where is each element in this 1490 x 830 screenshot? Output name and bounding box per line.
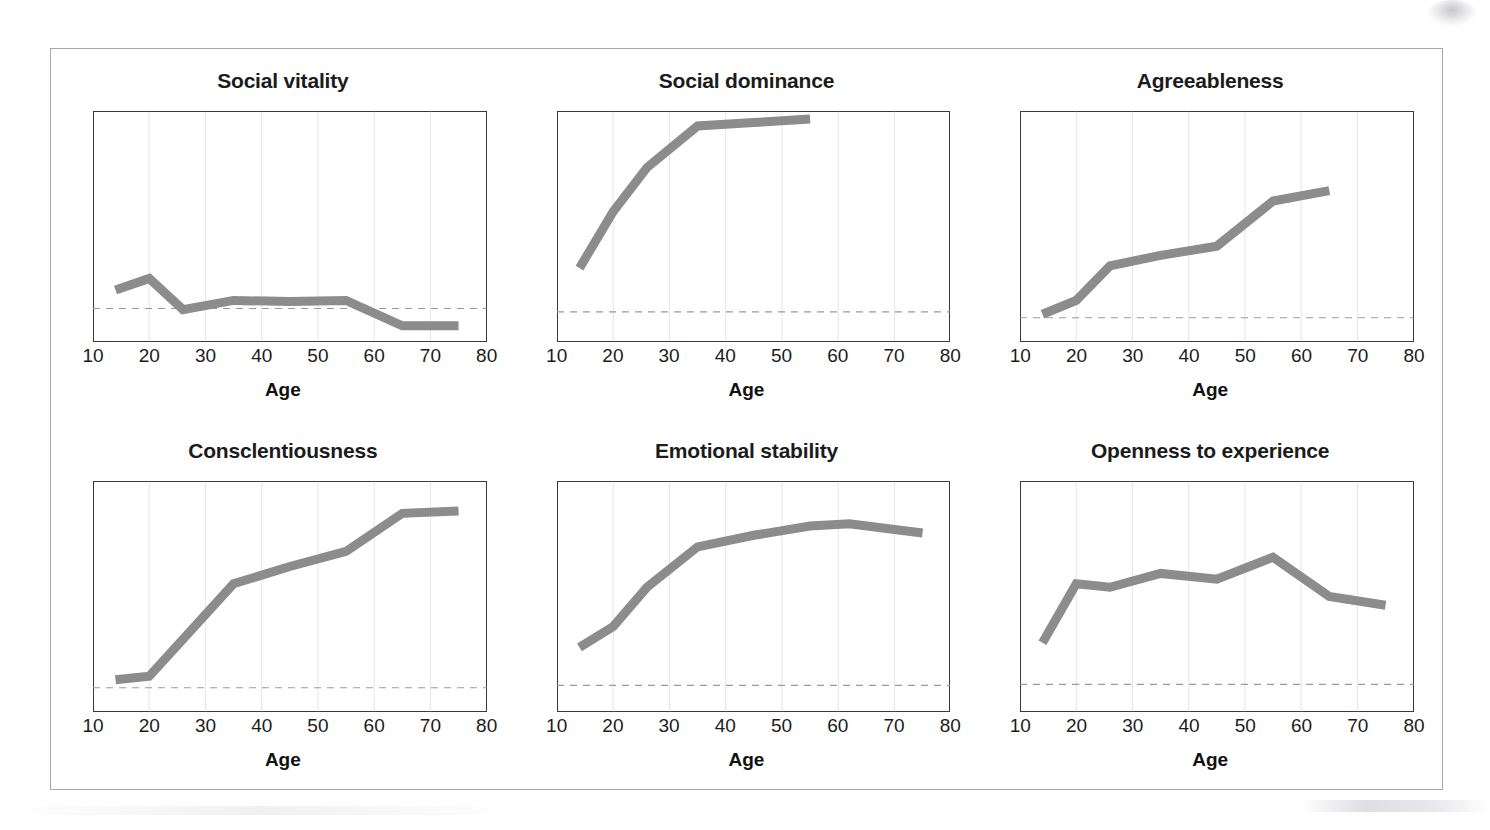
x-tick-label: 60 xyxy=(827,345,848,367)
trend-line xyxy=(579,119,810,268)
chart-panel: Emotional stability1020304050607080Age xyxy=(515,419,979,789)
x-tick-label: 20 xyxy=(139,715,160,737)
panel-title: Consclentiousness xyxy=(51,439,515,463)
x-tick-label: 40 xyxy=(251,345,272,367)
x-tick-label: 80 xyxy=(476,345,497,367)
trend-line xyxy=(115,511,458,680)
panel-title: Social vitality xyxy=(51,69,515,93)
chart-panel: Consclentiousness1020304050607080Age xyxy=(51,419,515,789)
x-tick-label: 10 xyxy=(1010,715,1031,737)
chart-panel: Openness to experience1020304050607080Ag… xyxy=(978,419,1442,789)
plot-canvas xyxy=(557,481,951,712)
x-tick-label: 60 xyxy=(827,715,848,737)
x-tick-label: 80 xyxy=(1403,715,1424,737)
plot-area xyxy=(1020,111,1414,342)
x-tick-label: 20 xyxy=(602,345,623,367)
x-tick-label: 60 xyxy=(364,715,385,737)
x-axis-label: Age xyxy=(978,749,1442,771)
x-tick-label: 20 xyxy=(602,715,623,737)
scan-smudge-bottom-right xyxy=(1300,800,1490,812)
x-tick-label: 50 xyxy=(1235,345,1256,367)
panel-grid: Social vitality1020304050607080AgeSocial… xyxy=(51,49,1442,789)
plot-canvas xyxy=(557,111,951,342)
x-axis-label: Age xyxy=(978,379,1442,401)
x-tick-label: 30 xyxy=(659,345,680,367)
x-tick-label: 10 xyxy=(546,715,567,737)
x-tick-label: 10 xyxy=(1010,345,1031,367)
plot-area xyxy=(1020,481,1414,712)
x-axis-label: Age xyxy=(515,379,979,401)
scan-smudge-top-right xyxy=(1428,0,1476,26)
x-tick-label: 50 xyxy=(771,345,792,367)
plot-area xyxy=(557,481,951,712)
panel-title: Openness to experience xyxy=(978,439,1442,463)
trend-line xyxy=(579,524,922,648)
x-tick-label: 40 xyxy=(715,715,736,737)
x-tick-label: 50 xyxy=(1235,715,1256,737)
x-tick-label: 10 xyxy=(82,345,103,367)
x-axis-tick-row: 1020304050607080 xyxy=(93,345,487,371)
x-tick-label: 20 xyxy=(1066,345,1087,367)
plot-area xyxy=(93,481,487,712)
trend-line xyxy=(1043,557,1386,642)
x-axis-label: Age xyxy=(515,749,979,771)
x-tick-label: 60 xyxy=(1291,715,1312,737)
x-tick-label: 20 xyxy=(139,345,160,367)
x-axis-tick-row: 1020304050607080 xyxy=(557,345,951,371)
x-axis-tick-row: 1020304050607080 xyxy=(1020,715,1414,741)
x-tick-label: 30 xyxy=(195,715,216,737)
plot-canvas xyxy=(93,481,487,712)
x-tick-label: 50 xyxy=(307,345,328,367)
plot-area xyxy=(93,111,487,342)
scan-smudge-bottom-left xyxy=(0,806,520,815)
figure-frame: Social vitality1020304050607080AgeSocial… xyxy=(50,48,1443,790)
panel-title: Emotional stability xyxy=(515,439,979,463)
x-tick-label: 60 xyxy=(364,345,385,367)
x-tick-label: 80 xyxy=(476,715,497,737)
x-axis-label: Age xyxy=(51,379,515,401)
x-tick-label: 40 xyxy=(1178,345,1199,367)
trend-line xyxy=(1043,191,1330,315)
chart-panel: Social vitality1020304050607080Age xyxy=(51,49,515,419)
plot-canvas xyxy=(93,111,487,342)
x-tick-label: 70 xyxy=(1347,715,1368,737)
x-tick-label: 10 xyxy=(546,345,567,367)
x-tick-label: 80 xyxy=(940,345,961,367)
plot-canvas xyxy=(1020,481,1414,712)
x-tick-label: 70 xyxy=(420,715,441,737)
x-axis-label: Age xyxy=(51,749,515,771)
plot-canvas xyxy=(1020,111,1414,342)
panel-title: Social dominance xyxy=(515,69,979,93)
x-tick-label: 70 xyxy=(1347,345,1368,367)
chart-panel: Social dominance1020304050607080Age xyxy=(515,49,979,419)
x-tick-label: 50 xyxy=(307,715,328,737)
x-axis-tick-row: 1020304050607080 xyxy=(93,715,487,741)
x-tick-label: 70 xyxy=(884,345,905,367)
x-axis-tick-row: 1020304050607080 xyxy=(557,715,951,741)
x-tick-label: 80 xyxy=(940,715,961,737)
panel-title: Agreeableness xyxy=(978,69,1442,93)
plot-area xyxy=(557,111,951,342)
x-tick-label: 20 xyxy=(1066,715,1087,737)
x-tick-label: 70 xyxy=(420,345,441,367)
x-tick-label: 40 xyxy=(251,715,272,737)
trend-line xyxy=(115,278,458,325)
x-tick-label: 50 xyxy=(771,715,792,737)
x-axis-tick-row: 1020304050607080 xyxy=(1020,345,1414,371)
x-tick-label: 40 xyxy=(1178,715,1199,737)
x-tick-label: 30 xyxy=(1122,345,1143,367)
chart-panel: Agreeableness1020304050607080Age xyxy=(978,49,1442,419)
x-tick-label: 10 xyxy=(82,715,103,737)
x-tick-label: 40 xyxy=(715,345,736,367)
x-tick-label: 80 xyxy=(1403,345,1424,367)
x-tick-label: 30 xyxy=(195,345,216,367)
x-tick-label: 30 xyxy=(1122,715,1143,737)
x-tick-label: 60 xyxy=(1291,345,1312,367)
x-tick-label: 30 xyxy=(659,715,680,737)
x-tick-label: 70 xyxy=(884,715,905,737)
